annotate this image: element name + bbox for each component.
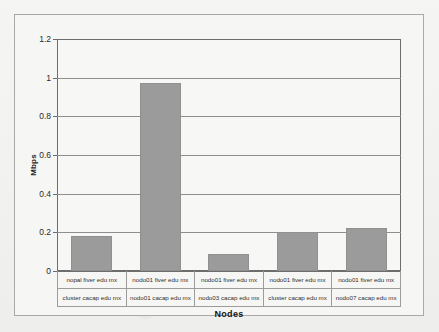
category-label-cell: nopal fiver edu mx [58,271,127,289]
category-label-cell: nodo07 cacap edu mx [332,289,401,307]
category-label-row: cluster cacap edu mxnodo01 cacap edu mxn… [58,289,401,307]
bar[interactable] [71,236,112,271]
category-label-cell: nodo01 fiver edu mx [195,271,264,289]
category-label-cell: nodo01 fiver edu mx [263,271,332,289]
category-label-cell: nodo01 fiver edu mx [332,271,401,289]
category-label-cell: cluster cacap edu mx [263,289,332,307]
x-axis-title: Nodes [57,309,401,319]
category-label-cell: nodo01 cacap edu mx [126,289,195,307]
y-tick-label: 0.8 [39,111,51,121]
y-tick-label: 0.2 [39,227,51,237]
chart-frame: Mbps 00.20.40.60.811.2 nopal fiver edu m… [14,14,424,316]
y-tick-label: 0.4 [39,189,51,199]
category-label-cell: nodo03 cacap edu mx [195,289,264,307]
bar[interactable] [140,83,181,271]
category-label-row: nopal fiver edu mxnodo01 fiver edu mxnod… [58,271,401,289]
y-tick-label: 1.2 [39,34,51,44]
bar-slot [332,39,401,271]
bar-slot [57,39,126,271]
bar-slot [126,39,195,271]
bar[interactable] [277,232,318,271]
y-axis-title: Mbps [29,154,38,176]
bar-slot [263,39,332,271]
bar[interactable] [346,228,387,271]
category-label-cell: nodo01 fiver edu mx [126,271,195,289]
y-tick-label: 0 [46,266,51,276]
bar[interactable] [208,254,249,271]
bars-group [57,39,401,271]
category-label-table: nopal fiver edu mxnodo01 fiver edu mxnod… [57,271,401,307]
category-label-cell: cluster cacap edu mx [58,289,127,307]
bar-slot [195,39,264,271]
plot-wrapper: 00.20.40.60.811.2 [57,39,401,271]
y-tick-label: 0.6 [39,150,51,160]
y-tick-label: 1 [46,73,51,83]
